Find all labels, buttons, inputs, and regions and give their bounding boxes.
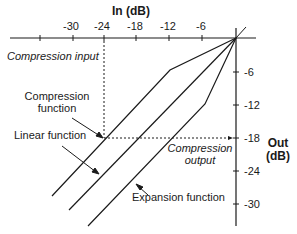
compression-input-label: Compression input (7, 50, 99, 62)
compression-function-label-line1: Compression (22, 90, 92, 102)
linear-function-line (69, 38, 236, 210)
y-tick-label: -18 (244, 132, 260, 144)
y-axis-title: Out (dB) (266, 137, 290, 163)
y-tick-label: -12 (244, 99, 260, 111)
x-tick-label: -6 (196, 20, 206, 32)
y-tick-label: -24 (244, 165, 260, 177)
x-tick-label: -12 (160, 20, 176, 32)
linear-function-label: Linear function (14, 129, 86, 141)
origin-extension (236, 27, 246, 38)
x-tick-label: -18 (127, 20, 143, 32)
compression-function-label: Compression function (22, 90, 92, 114)
compression-output-label-line1: Compression (162, 142, 238, 154)
y-tick-label: -30 (244, 198, 260, 210)
x-tick-label: -24 (94, 20, 110, 32)
compression-function-label-line2: function (22, 102, 92, 114)
y-tick-label: -6 (244, 66, 254, 78)
x-tick-label: -30 (63, 20, 79, 32)
expansion-function-label: Expansion function (132, 191, 225, 203)
compression-output-arrowhead (228, 136, 233, 140)
y-axis-title-line2: (dB) (266, 150, 290, 163)
compression-output-label: Compression output (162, 142, 238, 166)
x-axis-title: In (dB) (112, 5, 150, 18)
compression-output-label-line2: output (162, 154, 238, 166)
